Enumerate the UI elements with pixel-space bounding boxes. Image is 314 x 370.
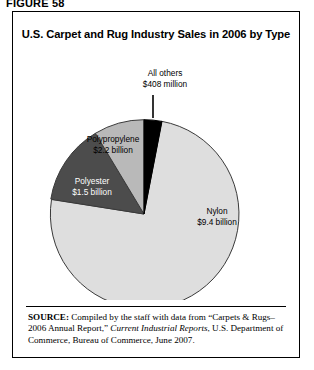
pie-label-polypropylene-name: Polypropylene bbox=[87, 134, 140, 144]
source-line-1: Compiled by the staff with data from “Ca… bbox=[69, 312, 249, 322]
pie-label-polyester-name: Polyester bbox=[75, 176, 110, 186]
source-note: SOURCE: Compiled by the staff with data … bbox=[28, 312, 286, 346]
source-line-2-post: , U.S. bbox=[208, 323, 229, 333]
pie-label-polyester-value: $1.5 billion bbox=[49, 187, 135, 198]
chart-title: U.S. Carpet and Rug Industry Sales in 20… bbox=[13, 28, 299, 40]
pie-label-polyester: Polyester $1.5 billion bbox=[49, 176, 135, 198]
figure-border-box: U.S. Carpet and Rug Industry Sales in 20… bbox=[12, 11, 300, 358]
pie-label-nylon-value: $9.4 billion bbox=[165, 217, 269, 228]
source-keyword: SOURCE: bbox=[28, 312, 69, 322]
pie-chart: All others $408 million Polypropylene $2… bbox=[13, 48, 301, 300]
pie-label-nylon-name: Nylon bbox=[206, 206, 227, 216]
source-publication-title: Current Industrial Reports bbox=[110, 323, 207, 333]
pie-label-all-others-value: $408 million bbox=[117, 79, 213, 90]
pie-label-nylon: Nylon $9.4 billion bbox=[165, 206, 269, 228]
source-divider bbox=[26, 306, 286, 307]
pie-label-all-others-name: All others bbox=[148, 68, 183, 78]
figure-number-label: FIGURE 58 bbox=[6, 0, 65, 9]
pie-label-polypropylene: Polypropylene $2.2 billion bbox=[61, 134, 165, 156]
pie-label-all-others: All others $408 million bbox=[117, 68, 213, 90]
pie-label-polypropylene-value: $2.2 billion bbox=[61, 145, 165, 156]
